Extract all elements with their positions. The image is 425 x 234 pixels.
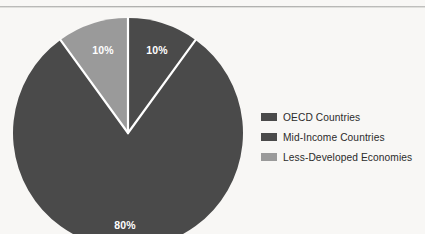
legend-item-mid-income[interactable]: Mid-Income Countries	[261, 127, 425, 147]
legend-label-mid-income: Mid-Income Countries	[283, 132, 385, 143]
legend-label-less-developed: Less-Developed Economies	[283, 152, 412, 163]
pie-chart-plot-area: 10% 10% 80%	[0, 0, 270, 234]
pie-label-mid-income: 80%	[102, 219, 148, 231]
legend-label-oecd: OECD Countries	[283, 112, 360, 123]
legend-swatch-icon-oecd	[261, 113, 277, 121]
legend-swatch-icon-mid-income	[261, 133, 277, 141]
pie-chart-svg	[0, 0, 270, 234]
legend-swatch-icon-less-developed	[261, 153, 277, 161]
legend-item-less-developed[interactable]: Less-Developed Economies	[261, 147, 425, 167]
legend-item-oecd[interactable]: OECD Countries	[261, 107, 425, 127]
chart-legend: OECD Countries Mid-Income Countries Less…	[261, 107, 425, 167]
pie-label-less-developed: 10%	[80, 44, 126, 56]
pie-chart-figure: 10% 10% 80% OECD Countries Mid-Income Co…	[0, 0, 425, 234]
pie-label-oecd: 10%	[134, 44, 180, 56]
